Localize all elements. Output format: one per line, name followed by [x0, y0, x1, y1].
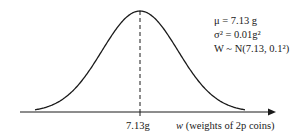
distribution-label: W ~ N(7.13, 0.1²) [214, 42, 289, 56]
x-axis-label: w (weights of 2p coins) [176, 120, 275, 131]
x-axis-label-text: (weights of 2p coins) [183, 120, 275, 131]
axis-arrow-icon [268, 109, 276, 116]
variance-label: σ² = 0.01g² [214, 28, 289, 42]
x-variable: w [176, 120, 183, 131]
mean-tick-label: 7.13g [126, 120, 150, 131]
distribution-parameters: μ = 7.13 g σ² = 0.01g² W ~ N(7.13, 0.1²) [214, 14, 289, 56]
normal-distribution-diagram: μ = 7.13 g σ² = 0.01g² W ~ N(7.13, 0.1²)… [0, 0, 308, 140]
mean-label: μ = 7.13 g [214, 14, 289, 28]
